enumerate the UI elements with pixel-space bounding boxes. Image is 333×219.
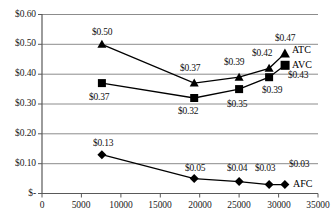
data-label-afc-2: $0.04 <box>227 163 247 173</box>
data-label-atc-2: $0.39 <box>224 57 244 67</box>
marker-afc-2 <box>235 177 244 186</box>
data-label-atc-4: $0.47 <box>275 33 295 43</box>
marker-avc-4 <box>281 61 290 70</box>
marker-avc-1 <box>190 94 198 102</box>
y-tick-label-1: $0.50 <box>0 38 36 48</box>
x-tick-label-6: 30000 <box>261 200 297 210</box>
series-label-atc: ATC <box>292 44 311 55</box>
x-tick-label-1: 5000 <box>64 200 98 210</box>
data-label-afc-4: $0.03 <box>289 159 309 169</box>
y-tick-label-3: $0.30 <box>0 98 36 108</box>
data-label-avc-4: $0.43 <box>288 70 308 80</box>
x-tick-marks <box>42 194 318 198</box>
data-label-atc-3: $0.42 <box>252 48 272 58</box>
marker-afc-1 <box>190 174 199 183</box>
marker-avc-2 <box>235 85 243 93</box>
y-tick-label-6: $- <box>0 188 36 198</box>
cost-curves-chart: $0.60 $0.50 $0.40 $0.30 $0.20 $0.10 $- 0… <box>0 0 333 219</box>
data-label-afc-1: $0.05 <box>185 163 205 173</box>
data-label-avc-1: $0.32 <box>178 106 198 116</box>
data-label-afc-3: $0.03 <box>255 163 275 173</box>
x-tick-label-5: 25000 <box>221 200 257 210</box>
marker-atc-4 <box>280 48 290 57</box>
marker-avc-0 <box>98 79 106 87</box>
y-tick-label-2: $0.40 <box>0 68 36 78</box>
marker-avc-3 <box>265 73 273 81</box>
x-tick-label-2: 10000 <box>103 200 139 210</box>
x-tick-label-4: 20000 <box>182 200 218 210</box>
series-label-afc: AFC <box>293 178 312 189</box>
data-label-avc-2: $0.35 <box>227 99 247 109</box>
marker-afc-4 <box>280 180 289 189</box>
marker-afc-3 <box>265 180 274 189</box>
data-label-atc-0: $0.50 <box>92 27 112 37</box>
data-label-avc-0: $0.37 <box>89 92 109 102</box>
data-label-afc-0: $0.13 <box>93 138 113 148</box>
x-tick-label-3: 15000 <box>142 200 178 210</box>
y-tick-label-4: $0.20 <box>0 128 36 138</box>
y-tick-label-5: $0.10 <box>0 158 36 168</box>
x-tick-label-0: 0 <box>25 200 59 210</box>
data-label-avc-3: $0.39 <box>262 85 282 95</box>
series-label-avc: AVC <box>292 59 312 70</box>
data-label-atc-1: $0.37 <box>180 63 200 73</box>
marker-afc-0 <box>97 150 106 159</box>
x-tick-label-7: 35000 <box>300 200 333 210</box>
y-tick-label-0: $0.60 <box>0 9 36 19</box>
